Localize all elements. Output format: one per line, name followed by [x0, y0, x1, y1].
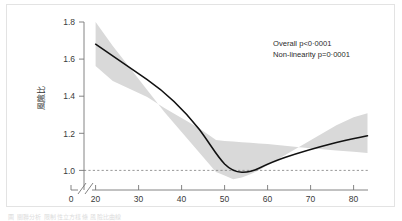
figure-container: 1.8 1.6 1.4 1.2 1.0 風險比 0 20 30	[0, 0, 402, 221]
x-tick-label-0: 0	[69, 194, 74, 204]
x-tick-label-60: 60	[263, 194, 273, 204]
x-tick-label-50: 50	[220, 194, 230, 204]
annotation-nonlinearity-p: Non-linearity p=0·0001	[273, 50, 350, 59]
x-axis-break-icon	[78, 183, 93, 194]
y-tick-label-1-8: 1.8	[63, 17, 75, 27]
y-tick-label-1-6: 1.6	[63, 54, 75, 64]
y-tick-label-1-4: 1.4	[63, 91, 75, 101]
y-tick-label-1-2: 1.2	[63, 129, 75, 139]
x-tick-label-40: 40	[177, 194, 187, 204]
x-axis-ticks	[96, 185, 354, 190]
hazard-ratio-spline-chart: 1.8 1.6 1.4 1.2 1.0 風險比 0 20 30	[0, 0, 402, 221]
annotation-overall-p: Overall p<0·0001	[273, 39, 331, 48]
y-tick-label-1-0: 1.0	[63, 166, 75, 176]
x-tick-label-70: 70	[306, 194, 316, 204]
x-tick-label-30: 30	[134, 194, 144, 204]
y-axis-label: 風險比	[36, 86, 46, 110]
y-axis-ticks	[79, 22, 84, 170]
figure-caption: 圖 關聯分析 限制性立方樣條 風險比曲線	[8, 212, 122, 221]
x-tick-label-80: 80	[349, 194, 359, 204]
x-tick-label-20: 20	[91, 194, 101, 204]
